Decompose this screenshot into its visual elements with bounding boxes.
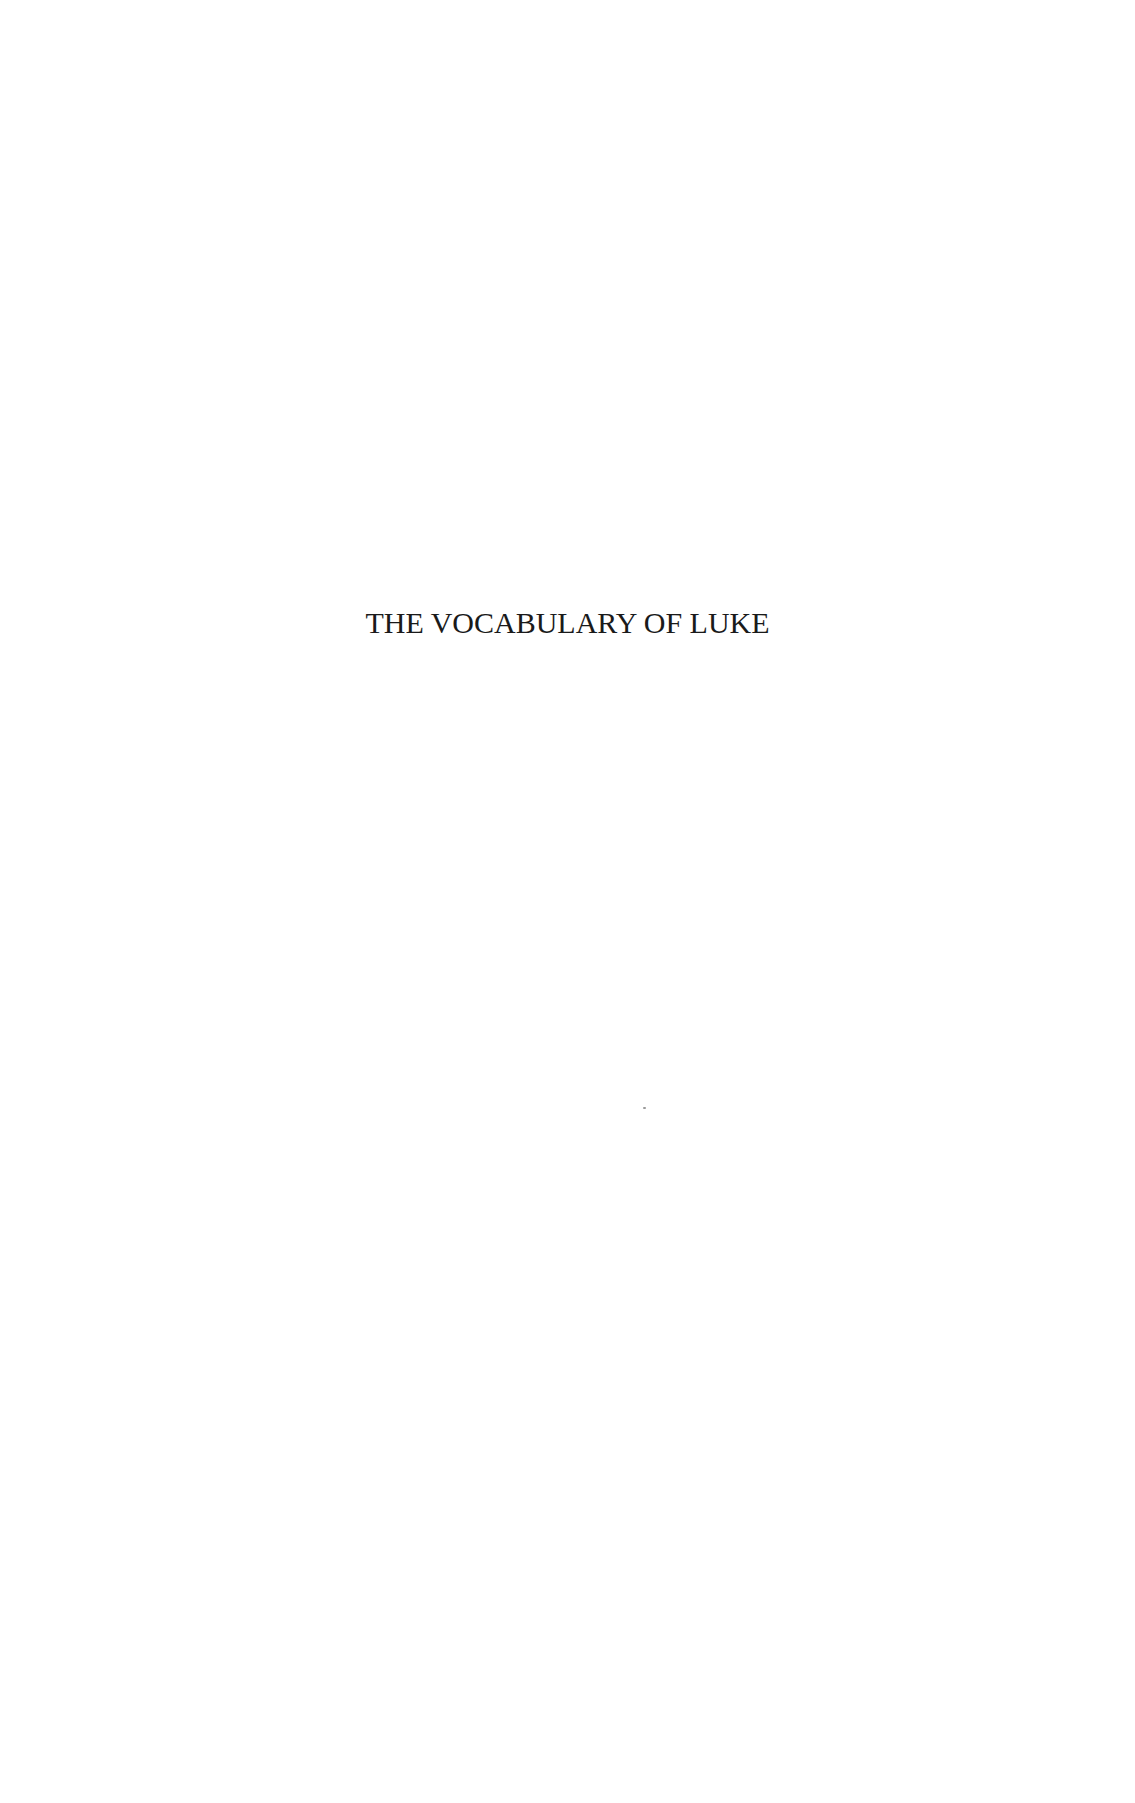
- scan-speck: [643, 1107, 646, 1109]
- book-title: THE VOCABULARY OF LUKE: [0, 603, 1135, 643]
- book-half-title-page: THE VOCABULARY OF LUKE: [0, 0, 1135, 1803]
